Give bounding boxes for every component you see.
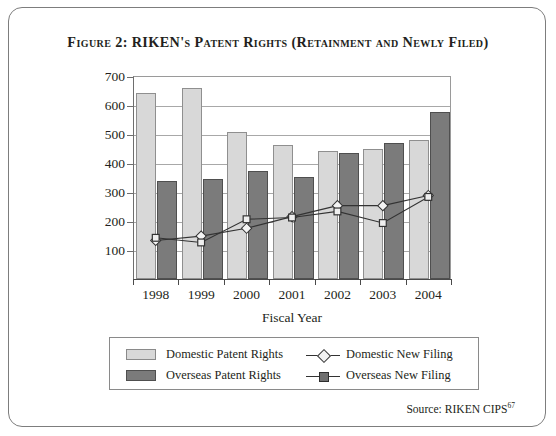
y-axis-tick: [127, 106, 134, 107]
y-axis-label: 400: [105, 156, 125, 172]
x-axis-tick: [451, 279, 452, 285]
legend-item-domestic-new-filing: Domestic New Filing: [306, 347, 453, 362]
y-axis-label: 300: [105, 185, 125, 201]
y-axis-tick: [127, 135, 134, 136]
legend-label: Overseas New Filing: [346, 368, 451, 383]
x-axis-tick: [315, 279, 316, 285]
x-axis-title: Fiscal Year: [133, 310, 451, 326]
x-axis-label-1999: 1999: [188, 287, 215, 303]
bar-domestic-2000: [227, 132, 247, 279]
chart-legend: Domestic Patent Rights Overseas Patent R…: [109, 337, 479, 390]
y-axis-label: 600: [105, 98, 125, 114]
bar-overseas-2004: [430, 112, 450, 279]
bar-overseas-1998: [157, 181, 177, 279]
figure-title: Figure 2: RIKEN's Patent Rights (Retainm…: [9, 34, 547, 51]
bar-domestic-2002: [318, 151, 338, 279]
y-axis-tick: [127, 222, 134, 223]
y-axis-label: 100: [105, 243, 125, 259]
source-footnote-marker: 67: [508, 401, 516, 410]
x-axis-label-1998: 1998: [142, 287, 169, 303]
y-axis-label: 700: [105, 69, 125, 85]
legend-marker-square-icon: [306, 370, 340, 382]
x-axis-tick: [133, 279, 134, 285]
bar-domestic-2004: [409, 140, 429, 279]
source-label: Source: RIKEN CIPS: [406, 403, 507, 416]
y-axis-tick: [127, 251, 134, 252]
legend-item-overseas-patent-rights: Overseas Patent Rights: [126, 368, 281, 383]
y-axis-label: 200: [105, 214, 125, 230]
x-axis-label-2004: 2004: [415, 287, 442, 303]
legend-swatch-overseas-bar: [126, 370, 156, 381]
figure-frame: Figure 2: RIKEN's Patent Rights (Retainm…: [8, 7, 546, 427]
y-axis-tick: [127, 164, 134, 165]
x-axis-tick: [269, 279, 270, 285]
legend-marker-diamond-icon: [306, 349, 340, 361]
x-axis-tick: [178, 279, 179, 285]
bar-domestic-1998: [136, 93, 156, 279]
x-axis-label-2002: 2002: [324, 287, 351, 303]
legend-label: Overseas Patent Rights: [166, 368, 281, 383]
x-axis-label-2003: 2003: [369, 287, 396, 303]
y-axis-tick: [127, 193, 134, 194]
bar-overseas-2001: [294, 177, 314, 279]
bar-domestic-2003: [363, 149, 383, 279]
legend-label: Domestic Patent Rights: [166, 347, 283, 362]
y-axis-tick: [127, 77, 134, 78]
source-note: Source: RIKEN CIPS67: [406, 401, 515, 416]
bar-domestic-1999: [182, 88, 202, 279]
x-axis-tick: [360, 279, 361, 285]
bar-overseas-2003: [384, 143, 404, 279]
legend-swatch-domestic-bar: [126, 349, 156, 360]
legend-item-overseas-new-filing: Overseas New Filing: [306, 368, 451, 383]
x-axis-tick: [224, 279, 225, 285]
x-axis-tick: [406, 279, 407, 285]
x-axis-label-2001: 2001: [279, 287, 306, 303]
bar-overseas-2000: [248, 171, 268, 279]
x-axis-label-2000: 2000: [233, 287, 260, 303]
bar-overseas-2002: [339, 153, 359, 279]
x-axis-line: [133, 279, 451, 280]
y-axis-label: 500: [105, 127, 125, 143]
plot-area: 100200300400500600700: [133, 76, 451, 279]
legend-label: Domestic New Filing: [346, 347, 453, 362]
bar-domestic-2001: [273, 145, 293, 279]
bar-overseas-1999: [203, 179, 223, 279]
chart-plot: 100200300400500600700 Fiscal Year 199819…: [9, 62, 547, 302]
legend-item-domestic-patent-rights: Domestic Patent Rights: [126, 347, 283, 362]
